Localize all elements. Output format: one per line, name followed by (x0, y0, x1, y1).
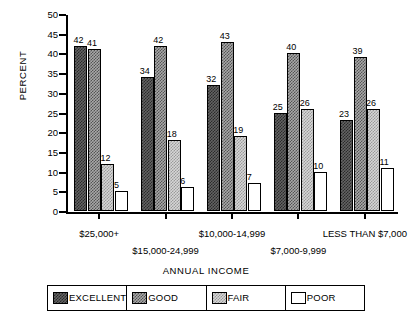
bar-fair[interactable] (367, 109, 380, 211)
legend-item[interactable]: POOR (286, 286, 364, 310)
bar-poor[interactable] (181, 187, 194, 211)
y-tick-label: 45 (32, 29, 58, 40)
legend-label: POOR (307, 293, 336, 303)
bar-value-label: 19 (233, 126, 243, 135)
y-tick-label: 15 (32, 147, 58, 158)
legend-item[interactable]: EXCELLENT (48, 286, 127, 310)
bar-group: 3442186 (132, 14, 198, 211)
bar-value-label: 43 (220, 32, 230, 41)
bar-poor[interactable] (115, 191, 128, 211)
y-tick-label: 10 (32, 167, 58, 178)
bar-value-label: 41 (87, 39, 97, 48)
y-tick-label: 40 (32, 48, 58, 59)
y-tick-mark (59, 34, 66, 36)
bar-value-label: 11 (380, 158, 389, 167)
legend-label: FAIR (228, 293, 250, 303)
bar-fair[interactable] (234, 136, 247, 211)
y-tick-mark (59, 172, 66, 174)
y-tick-mark (59, 93, 66, 95)
x-axis-title: ANNUAL INCOME (0, 265, 412, 276)
bar-poor[interactable] (314, 172, 327, 211)
bar-excellent[interactable] (74, 46, 87, 211)
bar-fair[interactable] (301, 109, 314, 211)
y-tick-mark (59, 73, 66, 75)
legend-item[interactable]: GOOD (127, 286, 206, 310)
x-tick-mark (297, 212, 299, 219)
bar-value-label: 40 (286, 43, 296, 52)
bar-value-label: 42 (73, 36, 83, 45)
bar-value-label: 6 (180, 177, 185, 186)
legend-item[interactable]: FAIR (207, 286, 286, 310)
bar-good[interactable] (154, 46, 167, 211)
bar-group: 23392611 (332, 14, 398, 211)
y-tick-label: 0 (32, 206, 58, 217)
y-tick-mark (59, 113, 66, 115)
bar-value-label: 7 (247, 173, 252, 182)
y-tick-label: 5 (32, 186, 58, 197)
legend-label: EXCELLENT (69, 293, 126, 303)
bar-value-label: 42 (153, 36, 163, 45)
bar-value-label: 12 (100, 154, 110, 163)
legend-swatch-icon (132, 292, 147, 304)
plot-area: 50454035302520151050 4241125344218632431… (66, 15, 398, 213)
bar-value-label: 18 (167, 130, 177, 139)
bar-value-label: 23 (339, 110, 349, 119)
y-tick-label: 20 (32, 127, 58, 138)
bar-group: 25402610 (265, 14, 331, 211)
x-tick-mark (98, 212, 100, 219)
bar-excellent[interactable] (207, 85, 220, 211)
bar-good[interactable] (88, 49, 101, 211)
y-tick-label: 35 (32, 68, 58, 79)
x-axis-label: $7,000-9,999 (238, 245, 358, 256)
y-tick-mark (59, 132, 66, 134)
bar-value-label: 25 (273, 103, 283, 112)
y-axis-title: PERCENT (17, 36, 28, 116)
bar-good[interactable] (354, 57, 367, 211)
y-tick-mark (59, 191, 66, 193)
x-axis-label: LESS THAN $7,000 (305, 228, 412, 239)
bar-value-label: 26 (300, 99, 310, 108)
bar-value-label: 39 (353, 47, 363, 56)
bar-group: 4241125 (66, 14, 132, 211)
y-tick-mark (59, 53, 66, 55)
bar-good[interactable] (287, 53, 300, 211)
legend-swatch-icon (212, 292, 227, 304)
legend-swatch-icon (53, 292, 68, 304)
bar-value-label: 32 (206, 75, 216, 84)
bar-value-label: 10 (313, 162, 323, 171)
bar-group: 3243197 (199, 14, 265, 211)
bar-chart: PERCENT 50454035302520151050 42411253442… (0, 0, 412, 324)
bar-excellent[interactable] (274, 113, 287, 212)
bar-fair[interactable] (101, 164, 114, 211)
y-tick-mark (59, 152, 66, 154)
bar-poor[interactable] (381, 168, 394, 211)
x-axis-label: $10,000-14,999 (172, 228, 292, 239)
bar-value-label: 26 (366, 99, 376, 108)
x-axis-label: $25,000+ (39, 228, 159, 239)
chart-legend: EXCELLENTGOODFAIRPOOR (47, 285, 365, 311)
bar-fair[interactable] (168, 140, 181, 211)
x-tick-mark (231, 212, 233, 219)
x-tick-mark (165, 212, 167, 219)
bar-poor[interactable] (248, 183, 261, 211)
bar-value-label: 5 (114, 181, 119, 190)
x-axis-label: $15,000-24,999 (106, 245, 226, 256)
y-tick-label: 25 (32, 108, 58, 119)
legend-label: GOOD (148, 293, 178, 303)
x-tick-mark (364, 212, 366, 219)
bar-good[interactable] (221, 42, 234, 211)
y-tick-label: 30 (32, 88, 58, 99)
bar-value-label: 34 (140, 67, 150, 76)
y-tick-label: 50 (32, 9, 58, 20)
bar-excellent[interactable] (141, 77, 154, 211)
y-tick-mark (59, 211, 66, 213)
legend-swatch-icon (291, 292, 306, 304)
bar-excellent[interactable] (340, 120, 353, 211)
y-tick-mark (59, 14, 66, 16)
